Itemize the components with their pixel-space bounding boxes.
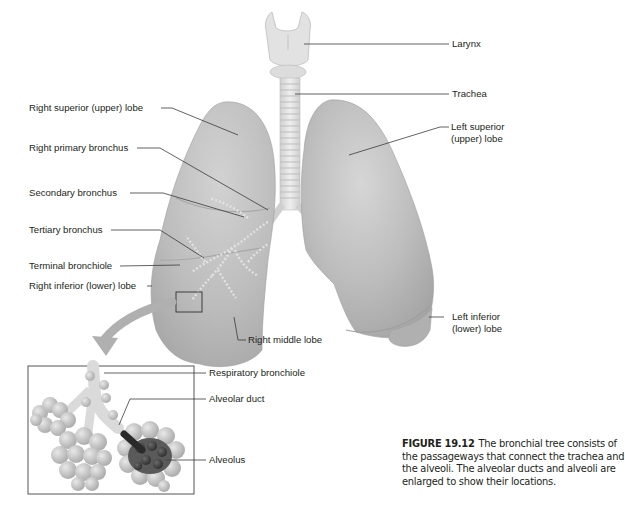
- label-alveolus: Alveolus: [209, 454, 245, 465]
- label-left-superior-lobe-2: (upper) lobe: [451, 133, 503, 144]
- left-lung-shape: [301, 100, 433, 347]
- label-larynx: Larynx: [452, 38, 481, 49]
- label-tertiary-bronchus: Tertiary bronchus: [29, 224, 103, 235]
- bronchial-tree-figure: Larynx Trachea Left superior (upper) lob…: [0, 0, 625, 506]
- label-respiratory-bronchiole: Respiratory bronchiole: [209, 367, 305, 378]
- lung-illustration: [0, 0, 625, 506]
- label-left-inferior-lobe-2: (lower) lobe: [452, 323, 502, 334]
- right-lung-shape: [151, 102, 275, 367]
- label-terminal-bronchiole: Terminal bronchiole: [29, 260, 112, 271]
- alveoli-inset: [28, 366, 194, 494]
- label-right-primary-bronchus: Right primary bronchus: [29, 142, 128, 153]
- label-secondary-bronchus: Secondary bronchus: [29, 187, 117, 198]
- figure-caption: FIGURE 19.12The bronchial tree consists …: [402, 438, 625, 488]
- label-right-superior-lobe: Right superior (upper) lobe: [29, 102, 143, 113]
- larynx-shape: [265, 12, 310, 79]
- label-trachea: Trachea: [452, 88, 487, 99]
- figure-number: FIGURE 19.12: [402, 438, 475, 449]
- label-right-inferior-lobe: Right inferior (lower) lobe: [29, 280, 136, 291]
- label-right-middle-lobe: Right middle lobe: [248, 334, 322, 345]
- label-left-superior-lobe-1: Left superior: [451, 121, 504, 132]
- label-alveolar-duct: Alveolar duct: [209, 393, 264, 404]
- label-left-inferior-lobe-1: Left inferior: [452, 311, 500, 322]
